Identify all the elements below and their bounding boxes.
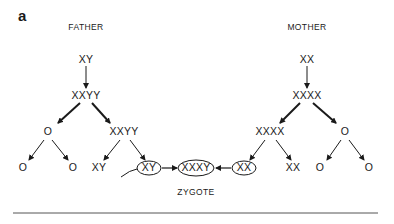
- father-gamete-o: O: [69, 161, 77, 173]
- arrow-icon: [313, 103, 336, 123]
- mother-o: O: [341, 125, 349, 137]
- mother-gamete-o: O: [316, 161, 324, 173]
- mother-gamete-xx: XX: [286, 161, 301, 173]
- arrow-icon: [104, 140, 120, 160]
- arrow-icon: [327, 140, 341, 160]
- father-xxyy-2: XXYY: [109, 125, 138, 137]
- zygote-genotype: XXXY: [181, 161, 210, 173]
- arrow-icon: [349, 140, 364, 160]
- father-xy: XY: [79, 53, 94, 65]
- arrow-icon: [130, 140, 145, 160]
- father-xxyy: XXYY: [71, 89, 100, 101]
- arrow-icon: [276, 140, 291, 160]
- sperm-xy: XY: [142, 161, 157, 173]
- father-header: FATHER: [68, 22, 103, 32]
- arrow-icon: [52, 140, 68, 160]
- arrow-icon: [29, 140, 44, 160]
- arrow-icon: [92, 103, 110, 123]
- zygote-label: ZYGOTE: [177, 187, 214, 197]
- panel-label: a: [18, 7, 27, 24]
- father-o: O: [44, 125, 52, 137]
- arrow-icon: [250, 140, 265, 160]
- arrow-icon: [58, 103, 80, 123]
- mother-xxxx-2: XXXX: [255, 125, 284, 137]
- mother-header: MOTHER: [287, 22, 326, 32]
- mother-gamete-o: O: [365, 161, 373, 173]
- egg-xx: XX: [237, 161, 252, 173]
- sperm-tail-icon: [121, 169, 137, 177]
- nondisjunction-diagram: a FATHER MOTHER XY XXYY O XXYY O O XY XY…: [0, 0, 394, 224]
- mother-xxxx: XXXX: [292, 89, 321, 101]
- father-gamete-xy: XY: [92, 161, 107, 173]
- arrow-icon: [280, 103, 300, 123]
- father-gamete-o: O: [19, 161, 27, 173]
- mother-xx: XX: [300, 53, 315, 65]
